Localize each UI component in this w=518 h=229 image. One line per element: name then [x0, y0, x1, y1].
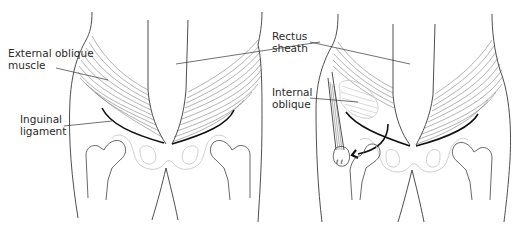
right-inguinal-ligament-l: [346, 112, 410, 146]
left-outer-thigh-r: [258, 120, 262, 222]
right-inguinal-ligament-r: [416, 114, 478, 146]
left-obturator-l: [140, 146, 156, 164]
left-rectus-line-r: [172, 20, 188, 144]
diagram-canvas: ℓ ℓ: [0, 0, 518, 229]
label-inguinal-ligament: Inguinal ligament: [20, 113, 66, 137]
label-line-2: oblique: [272, 98, 312, 110]
left-femur-r: [210, 140, 250, 200]
left-body-outline-right: [258, 12, 262, 120]
right-panel: ℓ ℓ: [310, 14, 511, 222]
right-rectus-line-l: [393, 24, 410, 145]
label-line-1: Rectus: [272, 30, 308, 42]
right-femur-r: [452, 142, 492, 200]
right-body-outline-outer: [316, 14, 338, 222]
right-inner-thigh-r: [412, 170, 424, 222]
right-pelvis: [360, 138, 468, 172]
spermatic-cord-fibers: [328, 72, 344, 150]
right-obturator-l: [386, 150, 400, 168]
label-rectus-sheath: Rectus sheath: [272, 30, 308, 54]
label-line-2: muscle: [8, 59, 94, 71]
left-rectus-line-l: [148, 20, 166, 144]
right-body-outline-right: [492, 14, 511, 222]
label-internal-oblique: Internal oblique: [272, 86, 312, 110]
label-external-oblique: External oblique muscle: [8, 47, 94, 71]
left-inguinal-ligament-l: [102, 108, 164, 143]
right-obturator-r: [426, 150, 440, 168]
left-pelvis: [112, 135, 226, 169]
right-external-oblique-fibers-right: [417, 40, 503, 144]
left-inner-thigh-r: [166, 168, 178, 220]
label-line-1: Internal: [272, 86, 312, 98]
anatomy-figure: ℓ ℓ: [0, 0, 518, 229]
testis-marks: ℓ ℓ: [335, 158, 343, 165]
inguinal-ligament-leader: [64, 121, 112, 126]
left-inner-thigh-l: [152, 168, 166, 220]
label-line-2: sheath: [272, 42, 308, 54]
label-line-1: Inguinal: [20, 113, 66, 125]
label-line-2: ligament: [20, 125, 66, 137]
left-obturator-r: [182, 146, 198, 164]
left-body-outline-outer: [69, 12, 92, 218]
left-femur-l: [86, 140, 126, 200]
right-inner-thigh-l: [398, 170, 412, 222]
right-rectus-line-r: [416, 24, 435, 145]
label-line-1: External oblique: [8, 47, 94, 59]
